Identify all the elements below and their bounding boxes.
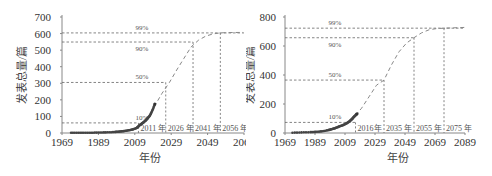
x-axis: 1969198920092029204920692089	[274, 133, 477, 148]
y-tick-label: 400	[260, 69, 277, 81]
x-tick-label: 1969	[274, 136, 297, 148]
y-tick-label: 700	[35, 11, 52, 23]
chart-left: 发表总量/篇 0100200300400500600700 1969198920…	[0, 0, 246, 176]
x-axis: 196919892009202920492069	[51, 133, 246, 148]
x-tick-label: 2069	[233, 136, 246, 148]
y-tick-label: 600	[35, 28, 52, 40]
threshold-percent-label: 50%	[329, 71, 342, 79]
x-tick-label: 2009	[124, 136, 147, 148]
threshold-percent-label: 10%	[329, 113, 342, 121]
threshold-percent-label: 99%	[329, 19, 342, 27]
y-tick-label: 500	[35, 44, 52, 56]
fit-curve	[151, 32, 243, 113]
svg-text:发表总量/篇: 发表总量/篇	[15, 46, 28, 104]
threshold-year-label: 2016年	[358, 123, 382, 133]
x-tick-label: 1989	[304, 136, 327, 148]
threshold-year-label: 2011 年	[140, 123, 166, 133]
x-tick-label: 1989	[87, 136, 110, 148]
threshold-year-label: 2041 年	[195, 123, 221, 133]
chart-right: 发表总量/篇 0200400600800 1969198920092029204…	[246, 0, 492, 176]
threshold-lines: 10%2011 年50%2026 年90%2041 年99%2056 年	[62, 24, 246, 133]
y-tick-label: 200	[35, 94, 52, 106]
y-axis: 0100200300400500600700	[35, 11, 63, 139]
y-axis-title: 发表总量/篇	[15, 46, 28, 104]
x-tick-label: 1969	[51, 136, 74, 148]
y-axis: 0200400600800	[260, 11, 286, 139]
x-tick-label: 2029	[364, 136, 387, 148]
threshold-percent-label: 90%	[136, 45, 149, 53]
y-axis-title: 发表总量/篇	[246, 46, 256, 104]
threshold-year-label: 2035 年	[386, 123, 412, 133]
y-tick-label: 100	[35, 110, 52, 122]
threshold-percent-label: 99%	[136, 24, 149, 32]
threshold-year-label: 2075 年	[446, 123, 472, 133]
threshold-percent-label: 90%	[329, 41, 342, 49]
x-tick-label: 2049	[197, 136, 220, 148]
fit-curve	[356, 27, 466, 115]
x-tick-label: 2089	[454, 136, 477, 148]
threshold-percent-label: 50%	[136, 73, 149, 81]
x-tick-label: 2069	[424, 136, 447, 148]
x-tick-label: 2009	[334, 136, 357, 148]
y-tick-label: 600	[260, 40, 277, 52]
y-tick-label: 300	[35, 77, 52, 89]
x-tick-label: 2029	[160, 136, 183, 148]
observed-points	[291, 112, 358, 134]
threshold-year-label: 2056 年	[222, 123, 246, 133]
threshold-year-label: 2026 年	[168, 123, 194, 133]
threshold-year-label: 2055 年	[416, 123, 442, 133]
svg-text:发表总量/篇: 发表总量/篇	[246, 46, 256, 104]
x-tick-label: 2049	[394, 136, 417, 148]
x-axis-title: 年份	[139, 151, 161, 164]
y-tick-label: 800	[260, 11, 277, 23]
y-tick-label: 200	[260, 98, 277, 110]
y-tick-label: 400	[35, 61, 52, 73]
x-axis-title: 年份	[387, 151, 409, 164]
threshold-lines: 10%2016年50%2035 年90%2055 年99%2075 年	[285, 19, 472, 133]
